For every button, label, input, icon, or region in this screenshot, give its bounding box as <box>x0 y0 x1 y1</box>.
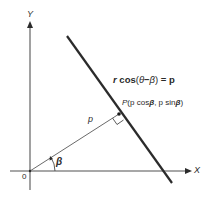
point-p-label: P(p cosβ, p sinβ) <box>122 99 183 107</box>
normal-segment <box>30 114 119 171</box>
y-axis-label: Y <box>27 10 33 19</box>
origin-label: 0 <box>22 173 26 181</box>
point-p2: p <box>159 98 163 107</box>
point-comma: , <box>154 98 156 107</box>
segment-p-label: p <box>88 115 93 124</box>
x-axis-arrow-icon <box>185 168 192 174</box>
y-axis-arrow-icon <box>27 21 33 28</box>
eq-cos: cos <box>119 74 135 85</box>
point-p1: p <box>130 98 134 107</box>
line-equation: r cos(θ−β) = p <box>113 75 175 85</box>
point-close: ) <box>180 98 183 107</box>
eq-close: ) <box>155 74 158 85</box>
right-angle-marker <box>113 118 124 125</box>
point-sin: sin <box>165 98 175 107</box>
point-p-dot <box>117 112 121 116</box>
eq-r: r <box>113 74 117 85</box>
eq-equals: = <box>161 74 167 85</box>
polar-line <box>67 36 172 183</box>
angle-beta-label: β <box>56 157 62 167</box>
origin-dot <box>29 170 31 172</box>
x-axis-label: X <box>194 166 200 175</box>
eq-p: p <box>169 74 175 85</box>
point-cos: cos <box>137 98 149 107</box>
